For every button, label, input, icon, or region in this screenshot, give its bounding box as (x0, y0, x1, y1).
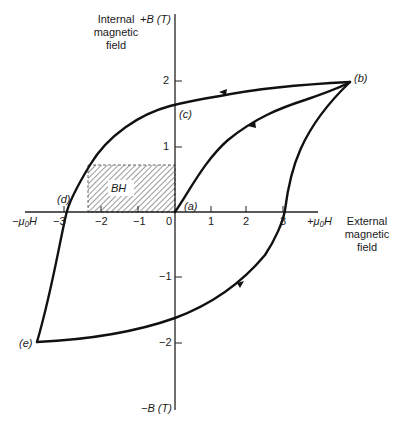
y-tick-2: 2 (163, 74, 169, 87)
x-desc-line-3: field (338, 241, 396, 254)
y-desc-line-3: field (90, 39, 142, 52)
x-tick-0: 0 (166, 215, 172, 228)
point-label-d: (d) (57, 193, 70, 206)
arrow-icon (219, 89, 227, 95)
y-axis-top-label: +B (T) (140, 13, 171, 26)
y-desc-line-2: magnetic (90, 26, 142, 39)
x-desc-line-2: magnetic (338, 228, 396, 241)
x-tick-neg3: −3 (53, 215, 66, 228)
x-axis-left-label: −μ₀H (12, 215, 37, 228)
y-desc-line-1: Internal (90, 13, 142, 26)
direction-arrows (219, 89, 256, 288)
point-label-b: (b) (354, 72, 367, 85)
point-label-c: (c) (179, 108, 192, 121)
bh-region-label: BH (111, 182, 126, 195)
y-tick-neg2: −2 (159, 336, 172, 349)
x-desc-line-1: External (338, 215, 396, 228)
x-tick-1: 1 (208, 215, 214, 228)
y-tick-1: 1 (163, 140, 169, 153)
y-axis-description: Internal magnetic field (90, 13, 142, 52)
point-label-a: (a) (184, 200, 197, 213)
x-tick-3: 3 (280, 215, 286, 228)
axes (25, 14, 318, 410)
hysteresis-diagram (0, 0, 398, 425)
y-axis-bottom-label: −B (T) (141, 402, 172, 415)
x-tick-neg2: −2 (95, 215, 108, 228)
bh-region (88, 165, 175, 212)
x-axis-description: External magnetic field (338, 215, 396, 254)
x-tick-2: 2 (243, 215, 249, 228)
x-axis-right-label: +μ₀H (307, 215, 332, 228)
initial-magnetization-curve (175, 82, 350, 212)
point-label-e: (e) (19, 337, 32, 350)
x-tick-neg1: −1 (133, 215, 146, 228)
y-tick-neg1: −1 (159, 270, 172, 283)
